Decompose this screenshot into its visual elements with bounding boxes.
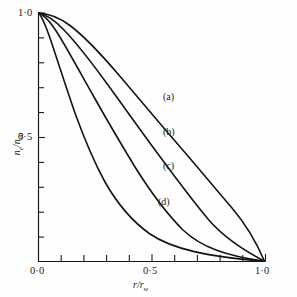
x-axis-title-denominator-subscript: w bbox=[144, 285, 149, 293]
x-axis-tick-label-1-0: 1·0 bbox=[255, 265, 269, 276]
curve-label-d: (d) bbox=[158, 196, 170, 207]
chart-curves bbox=[39, 13, 265, 261]
chart-plot-area bbox=[0, 0, 297, 297]
curve-label-b: (b) bbox=[163, 126, 175, 137]
y-axis-title-slash: / bbox=[11, 144, 22, 147]
curve-label-a: (a) bbox=[163, 91, 174, 102]
curve-label-c: (c) bbox=[163, 160, 174, 171]
y-axis-title-denominator: n bbox=[11, 139, 22, 144]
y-axis-title-numerator: n bbox=[11, 150, 22, 155]
curve-b bbox=[39, 13, 265, 261]
y-axis-tick-label-1-0: 1·0 bbox=[18, 7, 32, 18]
figure-container: 1·0 0·5 0·0 0·5 1·0 r/rw ne/ne0 (a) (b) … bbox=[0, 0, 297, 297]
x-axis-tick-label-0-0: 0·0 bbox=[30, 265, 44, 276]
curve-a bbox=[39, 13, 265, 261]
curve-c bbox=[39, 13, 265, 261]
y-axis-title-numerator-subscript: e bbox=[17, 147, 25, 150]
curve-d bbox=[39, 13, 265, 261]
x-axis-title: r/rw bbox=[133, 279, 148, 293]
y-axis-title-denominator-subscript: e0 bbox=[17, 133, 25, 140]
y-axis-ticks bbox=[39, 13, 46, 237]
y-axis-title: ne/ne0 bbox=[11, 114, 25, 174]
x-axis-tick-label-0-5: 0·5 bbox=[143, 265, 157, 276]
